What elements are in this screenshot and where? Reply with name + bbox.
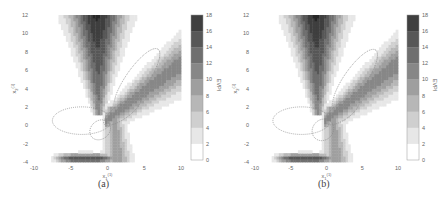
contour-plot-b: -10-50510121086420-2-4x1(1)x2(1)18161412… bbox=[221, 0, 443, 204]
x-tick-label: 5 bbox=[361, 165, 364, 171]
colorbar-tick-label: 14 bbox=[206, 44, 212, 50]
y-tick-label: 8 bbox=[25, 49, 28, 55]
colorbar-tick-label: 18 bbox=[206, 12, 212, 18]
colorbar-tick-label: 16 bbox=[206, 28, 212, 34]
y-axis-label: x2(1) bbox=[10, 83, 19, 94]
caption-b: (b) bbox=[318, 178, 330, 189]
colorbar: 181614121086420EVPI bbox=[191, 12, 222, 163]
panel-b: -10-50510121086420-2-4x1(1)x2(1)18161412… bbox=[221, 0, 443, 204]
contour-field bbox=[272, 15, 399, 162]
contour-plot-a: -10-50510121086420-2-4x1(1)x2(1)18161412… bbox=[0, 0, 222, 204]
caption-a: (a) bbox=[98, 178, 109, 189]
colorbar-tick-label: 4 bbox=[206, 125, 209, 131]
y-tick-label: 12 bbox=[243, 12, 249, 18]
x-tick-label: -10 bbox=[30, 165, 38, 171]
colorbar-tick-label: 8 bbox=[422, 93, 425, 99]
y-tick-label: -4 bbox=[244, 159, 249, 165]
colorbar-tick-label: 14 bbox=[422, 44, 428, 50]
panel-a: -10-50510121086420-2-4x1(1)x2(1)18161412… bbox=[0, 0, 222, 204]
y-tick-label: 0 bbox=[246, 122, 249, 128]
y-tick-label: -4 bbox=[23, 159, 28, 165]
y-tick-label: 2 bbox=[246, 104, 249, 110]
x-tick-label: -10 bbox=[251, 165, 259, 171]
colorbar-tick-label: 6 bbox=[206, 109, 209, 115]
y-tick-label: -2 bbox=[244, 141, 249, 147]
y-tick-label: 10 bbox=[243, 30, 249, 36]
y-tick-label: 6 bbox=[25, 67, 28, 73]
colorbar-tick-label: 10 bbox=[206, 76, 212, 82]
x-tick-label: 10 bbox=[395, 165, 401, 171]
y-tick-label: 0 bbox=[25, 122, 28, 128]
y-tick-label: 8 bbox=[246, 49, 249, 55]
colorbar-tick-label: 0 bbox=[206, 157, 209, 163]
colorbar-tick-label: 2 bbox=[422, 141, 425, 147]
y-tick-label: -2 bbox=[23, 141, 28, 147]
y-tick-label: 6 bbox=[246, 67, 249, 73]
colorbar-tick-label: 2 bbox=[206, 141, 209, 147]
x-tick-label: 0 bbox=[325, 165, 328, 171]
colorbar-tick-label: 6 bbox=[422, 109, 425, 115]
x-tick-label: 10 bbox=[178, 165, 184, 171]
y-axis-label: x2(1) bbox=[231, 83, 240, 94]
y-tick-label: 4 bbox=[246, 86, 249, 92]
colorbar-tick-label: 10 bbox=[422, 76, 428, 82]
colorbar-tick-label: 8 bbox=[206, 93, 209, 99]
colorbar: 181614121086420EVPI bbox=[407, 12, 438, 163]
contour-field bbox=[51, 15, 181, 162]
y-tick-label: 2 bbox=[25, 104, 28, 110]
y-tick-label: 4 bbox=[25, 86, 28, 92]
colorbar-tick-label: 12 bbox=[422, 60, 428, 66]
y-tick-label: 12 bbox=[22, 12, 28, 18]
colorbar-tick-label: 18 bbox=[422, 12, 428, 18]
colorbar-tick-label: 16 bbox=[422, 28, 428, 34]
x-tick-label: -5 bbox=[288, 165, 293, 171]
colorbar-tick-label: 0 bbox=[422, 157, 425, 163]
colorbar-label: EVPI bbox=[432, 79, 438, 92]
x-tick-label: -5 bbox=[68, 165, 73, 171]
x-tick-label: 5 bbox=[143, 165, 146, 171]
y-tick-label: 10 bbox=[22, 30, 28, 36]
x-tick-label: 0 bbox=[106, 165, 109, 171]
colorbar-tick-label: 4 bbox=[422, 125, 425, 131]
colorbar-tick-label: 12 bbox=[206, 60, 212, 66]
